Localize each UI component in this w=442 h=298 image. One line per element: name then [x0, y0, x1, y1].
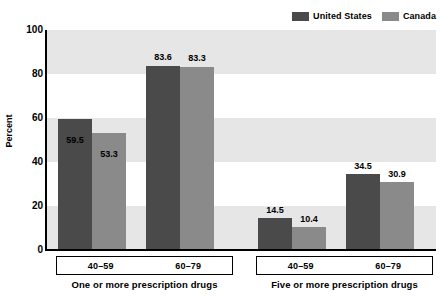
- bar-label-five-or-more-60-79-united-states: 34.5: [346, 162, 380, 171]
- y-tick-100: 100: [3, 25, 43, 35]
- bar-five-or-more-60-79-united-states: [346, 174, 380, 250]
- group-caption-one-or-more: One or more prescription drugs: [56, 279, 233, 290]
- legend-entry-united-states: United States: [292, 11, 372, 21]
- bar-label-one-or-more-60-79-canada: 83.3: [180, 54, 214, 63]
- legend-label-united-states: United States: [313, 11, 372, 21]
- bar-label-one-or-more-40-59-united-states: 59.5: [58, 136, 92, 145]
- bar-five-or-more-40-59-canada: [292, 227, 326, 250]
- age-label-five-or-more-60-79: 60–79: [345, 257, 433, 274]
- bar-label-five-or-more-40-59-united-states: 14.5: [258, 206, 292, 215]
- legend-label-canada: Canada: [403, 11, 436, 21]
- y-tick-20: 20: [3, 201, 43, 211]
- bar-one-or-more-60-79-canada: [180, 67, 214, 250]
- legend-entry-canada: Canada: [382, 11, 436, 21]
- legend-swatch-canada: [382, 12, 399, 21]
- age-label-one-or-more-40-59: 40–59: [57, 257, 145, 274]
- y-tick-80: 80: [3, 69, 43, 79]
- plot-area: 59.5 53.3 83.6 83.3 14.5 10.4 34.5 30.9: [47, 30, 436, 250]
- age-label-five-or-more-40-59: 40–59: [257, 257, 345, 274]
- age-label-one-or-more-60-79: 60–79: [145, 257, 233, 274]
- y-tick-0: 0: [3, 245, 43, 255]
- bar-label-five-or-more-60-79-canada: 30.9: [380, 170, 414, 179]
- bars-layer: 59.5 53.3 83.6 83.3 14.5 10.4 34.5 30.9: [47, 30, 436, 250]
- bar-five-or-more-40-59-united-states: [258, 218, 292, 250]
- bar-label-one-or-more-40-59-canada: 53.3: [92, 150, 126, 159]
- x-axis-line: [45, 249, 436, 251]
- bar-one-or-more-60-79-united-states: [146, 66, 180, 250]
- chart-legend: United States Canada: [292, 11, 436, 21]
- legend-swatch-united-states: [292, 12, 309, 21]
- group-bracket-five-or-more: 40–59 60–79: [256, 256, 433, 275]
- bar-label-five-or-more-40-59-canada: 10.4: [292, 215, 326, 224]
- bar-five-or-more-60-79-canada: [380, 182, 414, 250]
- y-axis-title: Percent: [4, 101, 14, 161]
- group-caption-five-or-more: Five or more prescription drugs: [256, 279, 433, 290]
- group-bracket-one-or-more: 40–59 60–79: [56, 256, 233, 275]
- y-axis-line: [45, 30, 47, 251]
- bar-label-one-or-more-60-79-united-states: 83.6: [146, 53, 180, 62]
